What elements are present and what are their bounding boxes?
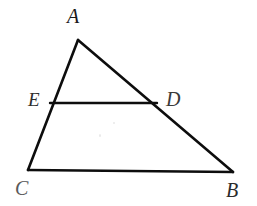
vertex-label-C: C — [15, 178, 28, 198]
vertex-label-E: E — [28, 90, 40, 109]
vertex-label-B: B — [226, 180, 238, 200]
geometry-figure: A E D C B — [0, 0, 257, 206]
vertex-label-A: A — [67, 6, 79, 26]
side-CB — [28, 170, 233, 172]
paper-speck-one — [113, 122, 115, 124]
paper-speck-two — [99, 134, 101, 137]
vertex-label-D: D — [166, 89, 180, 109]
side-AB — [78, 40, 233, 172]
